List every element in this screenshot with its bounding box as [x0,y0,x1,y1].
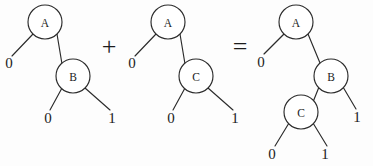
tree-middle-edge-a-low [135,34,156,56]
tree-left-edge-b-high [85,88,110,110]
tree-left-edge-a-high [57,34,62,64]
tree-result-node-c[interactable]: C [284,95,318,129]
tree-result-leaf-0-left: 0 [257,54,265,70]
tree-result: ABC0101 [257,5,361,162]
tree-left-edge-b-low [50,88,62,110]
tree-middle-node-a-label: A [164,17,173,29]
tree-left-node-a[interactable]: A [28,5,62,39]
tree-middle-node-a[interactable]: A [151,5,185,39]
tree-left-leaf-0-mid: 0 [44,110,52,126]
tree-result-edge-c-high [313,123,327,146]
tree-result-edge-b-high [343,87,356,109]
tree-result-leaf-1-right: 1 [353,109,361,125]
tree-left-node-b[interactable]: B [56,59,90,93]
tree-left-node-b-label: B [69,71,77,83]
tree-result-node-a[interactable]: A [279,5,313,39]
tree-diagram-canvas: AB001AC001ABC0101+= [0,0,373,166]
tree-middle-node-c-label: C [192,71,200,83]
tree-result-edge-a-high [308,34,320,63]
tree-middle-leaf-0-mid: 0 [167,110,175,126]
tree-middle-edge-c-low [173,88,185,110]
tree-result-edge-c-low [275,123,289,146]
tree-middle-edge-a-high [180,34,185,64]
decision-tree-figure: AB001AC001ABC0101+= [0,0,373,166]
tree-result-edge-b-low [313,87,319,102]
tree-result-leaf-1-bottom: 1 [321,146,329,162]
tree-left-leaf-1-right: 1 [108,110,116,126]
tree-middle-leaf-0-left: 0 [128,55,136,71]
tree-left: AB001 [5,5,116,126]
tree-left-leaf-0-left: 0 [5,55,13,71]
tree-result-node-b-label: B [327,71,335,83]
tree-result-node-b[interactable]: B [314,59,348,93]
tree-result-leaf-0-bottom: 0 [268,146,276,162]
tree-result-node-a-label: A [292,17,301,29]
tree-middle: AC001 [128,5,239,126]
tree-left-edge-a-low [12,34,33,56]
tree-middle-edge-c-high [208,88,233,110]
tree-result-edge-a-low [264,34,284,54]
tree-middle-leaf-1-right: 1 [231,110,239,126]
tree-result-node-c-label: C [297,107,305,119]
tree-middle-node-c[interactable]: C [179,59,213,93]
plus-operator: + [102,32,117,61]
tree-left-node-a-label: A [41,17,50,29]
equals-operator: = [233,32,248,61]
